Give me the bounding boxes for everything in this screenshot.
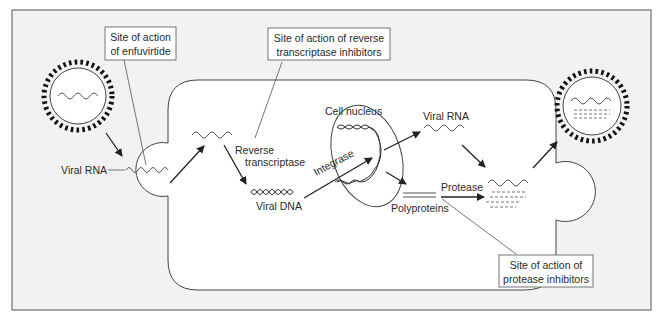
label-viral-dna: Viral DNA xyxy=(256,200,302,212)
label-reverse: Reverse xyxy=(235,144,274,156)
callout-protease-inhibitors: Site of action of protease inhibitors xyxy=(499,255,593,287)
svg-text:Site of action of: Site of action of xyxy=(510,259,582,271)
svg-text:Site of action of reverse: Site of action of reverse xyxy=(274,32,384,44)
label-viral-rna-out: Viral RNA xyxy=(423,110,469,122)
svg-text:protease inhibitors: protease inhibitors xyxy=(503,273,589,285)
svg-text:transcriptase inhibitors: transcriptase inhibitors xyxy=(276,46,381,58)
label-viral-rna-entry: Viral RNA xyxy=(61,164,107,176)
label-protease: Protease xyxy=(441,181,483,193)
callout-reverse-transcriptase-inhibitors: Site of action of reverse transcriptase … xyxy=(268,28,390,60)
callout-enfuvirtide: Site of action of enfuvirtide xyxy=(105,27,176,60)
label-polyproteins: Polyproteins xyxy=(391,202,449,214)
svg-text:of enfuvirtide: of enfuvirtide xyxy=(110,45,170,57)
label-transcriptase: transcriptase xyxy=(245,156,305,168)
svg-text:Site of action: Site of action xyxy=(110,31,171,43)
hiv-lifecycle-diagram: Site of action of enfuvirtide Site of ac… xyxy=(0,0,662,325)
label-cell-nucleus: Cell nucleus xyxy=(325,105,382,117)
